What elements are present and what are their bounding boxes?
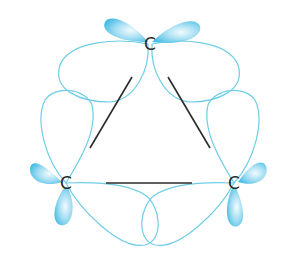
lobe-left-upper [30, 163, 62, 184]
lobe-right-lower [227, 188, 243, 227]
atom-labels: C C C [60, 34, 240, 193]
bond-top-right [168, 77, 210, 148]
atom-label-top: C [144, 34, 156, 54]
bond-top-left [90, 77, 132, 148]
atom-label-right: C [228, 173, 240, 193]
bent-bond-orbitals [41, 41, 259, 245]
bond-lines [90, 77, 210, 183]
lobe-top-left [104, 19, 148, 42]
cyclopropane-diagram: C C C [0, 0, 298, 272]
atom-label-left: C [60, 173, 72, 193]
lobe-top-right [152, 21, 200, 43]
lobe-left-lower [54, 188, 72, 225]
